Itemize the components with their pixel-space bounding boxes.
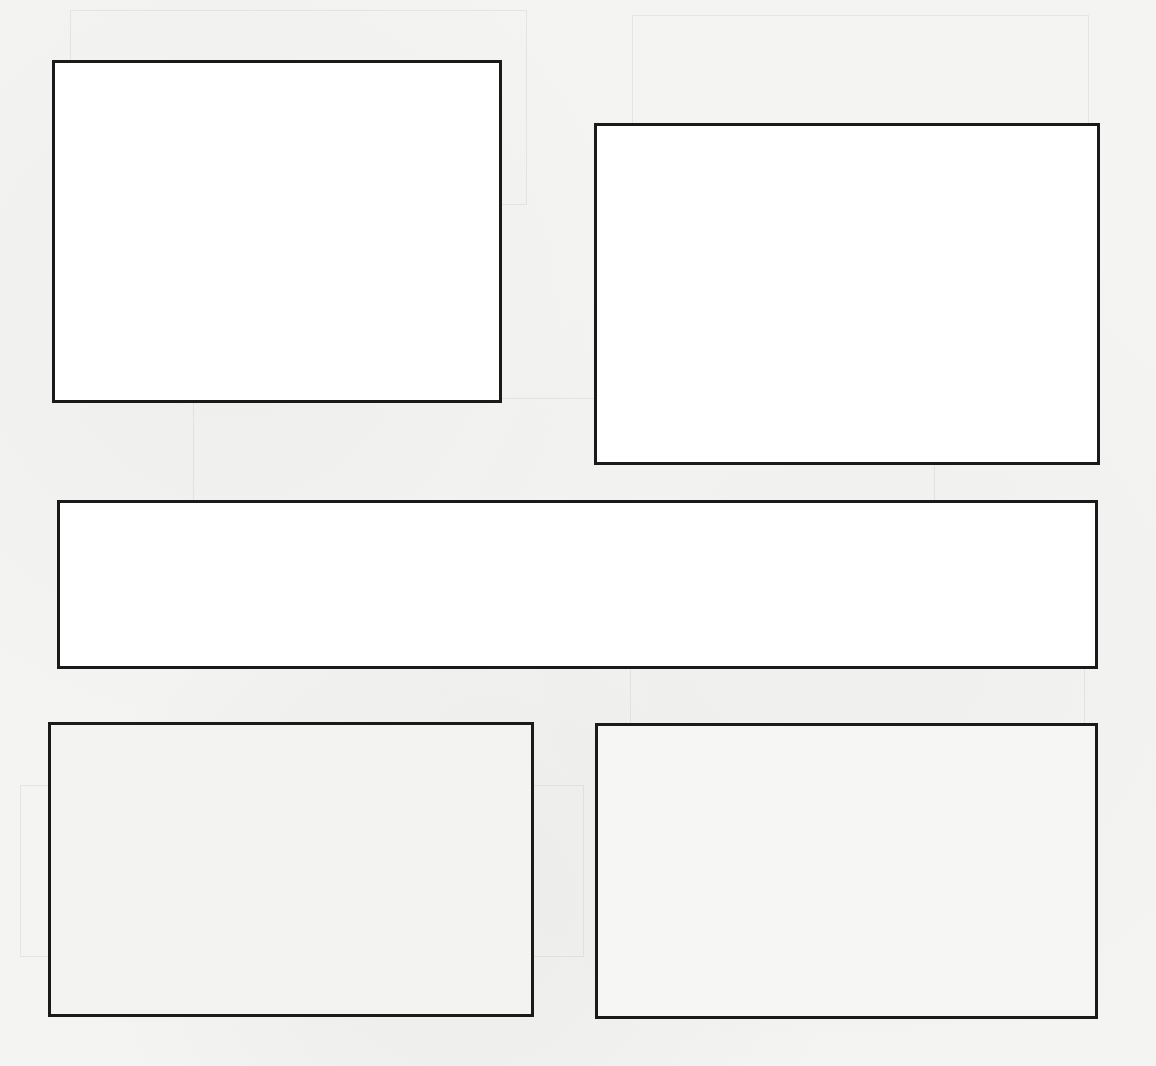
empty-box-top-left [52, 60, 502, 403]
empty-box-top-right [594, 123, 1100, 465]
empty-box-bottom-right [595, 723, 1098, 1019]
empty-box-wide-middle [57, 500, 1098, 669]
scanned-page [0, 0, 1156, 1066]
empty-box-bottom-left [48, 722, 534, 1017]
